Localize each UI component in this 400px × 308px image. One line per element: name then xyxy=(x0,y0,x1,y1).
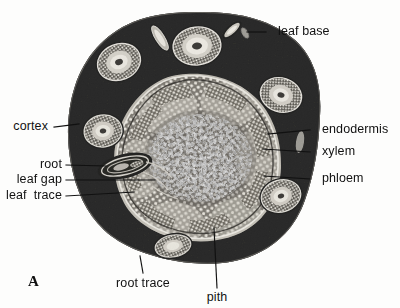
label-leaf-gap: leaf gap xyxy=(17,173,62,186)
label-cortex: cortex xyxy=(13,120,48,133)
label-leaf-trace: leaf trace xyxy=(6,189,62,202)
label-root: root xyxy=(40,158,62,171)
panel-label: A xyxy=(28,273,39,290)
label-xylem: xylem xyxy=(322,145,355,158)
label-pith: pith xyxy=(17,291,400,304)
label-endodermis: endodermis xyxy=(322,123,388,136)
label-phloem: phloem xyxy=(322,172,364,185)
label-leaf-base: leaf base xyxy=(278,25,330,38)
label-root-trace: root trace xyxy=(0,277,343,290)
